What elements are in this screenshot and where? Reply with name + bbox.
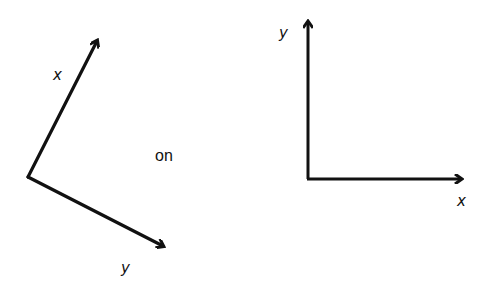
- left-x-label: x: [52, 66, 62, 84]
- left-y-label: y: [120, 259, 131, 277]
- connector-text-on: on: [155, 147, 173, 164]
- right-x-label: x: [456, 192, 466, 210]
- right-standard-frame: y x: [278, 22, 466, 210]
- coordinate-frames-diagram: x y on y x: [0, 0, 487, 293]
- left-rotated-frame: x y: [28, 41, 163, 277]
- right-y-label: y: [278, 24, 289, 42]
- left-y-axis-arrow: [28, 177, 163, 246]
- left-x-axis-arrow: [28, 41, 97, 177]
